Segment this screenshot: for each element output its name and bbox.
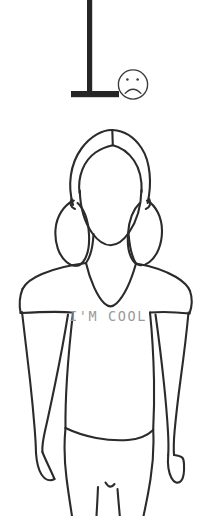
hip-left — [65, 428, 72, 516]
sad-face-frown-icon — [125, 89, 141, 93]
illustration-scene: I'M COOL — [0, 0, 210, 516]
shoulder-left — [23, 263, 87, 289]
arm-right-inner — [156, 315, 169, 456]
sleeve-right-hem — [150, 312, 190, 314]
shirt-v-neck — [86, 263, 136, 306]
arm-right-outer — [174, 313, 189, 456]
sleeve-left-hem — [21, 312, 73, 313]
crotch-mark — [106, 483, 115, 487]
hand-right — [168, 455, 184, 483]
pole-post — [87, 0, 92, 93]
sad-face-eye-left — [126, 78, 128, 81]
t-shaped-pole — [71, 0, 119, 97]
pole-base — [71, 91, 119, 97]
shirt-side-seam-right — [150, 313, 154, 431]
sad-face-outline — [118, 70, 147, 99]
sleeve-left-outer — [20, 289, 23, 313]
hip-right — [144, 430, 154, 516]
sleeve-right-outer — [190, 291, 192, 314]
hair-part-line — [79, 145, 113, 193]
shirt-side-seam-left — [65, 313, 73, 429]
pigtail-left — [55, 201, 89, 266]
leg-left-inner — [97, 487, 99, 516]
shirt-print-text: I'M COOL — [69, 308, 147, 324]
arm-left-outer — [22, 312, 36, 453]
sad-face-eye-right — [136, 78, 139, 81]
hair-center-part — [112, 130, 113, 145]
shirt-waistline — [66, 428, 154, 440]
sad-face-emoticon — [118, 70, 147, 99]
hair-fringe-right — [113, 145, 142, 192]
shoulder-right — [136, 264, 190, 292]
leg-right-inner — [118, 489, 120, 516]
hand-left-thumb — [42, 452, 54, 479]
illustration-canvas: I'M COOL — [0, 0, 210, 516]
